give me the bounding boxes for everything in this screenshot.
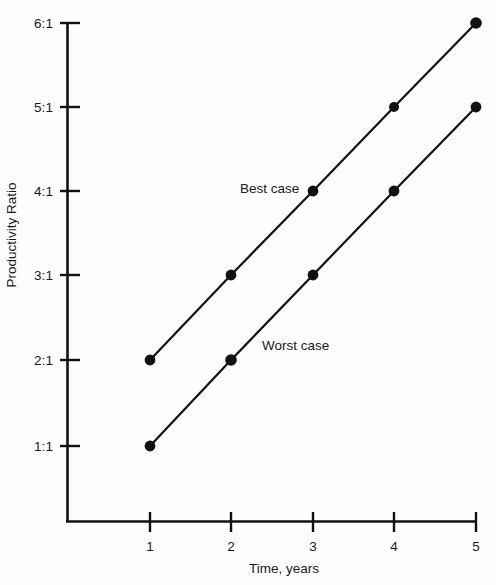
data-point	[389, 102, 399, 112]
y-tick-label-5: 5:1	[8, 100, 53, 115]
data-point	[389, 186, 400, 197]
series-label-worst-case: Worst case	[262, 338, 329, 353]
series-label-best-case: Best case	[240, 181, 299, 196]
x-tick-label-2: 2	[227, 539, 235, 554]
data-point	[145, 355, 156, 366]
chart-plot-area	[0, 0, 496, 585]
data-point	[471, 102, 482, 113]
x-tick-label-5: 5	[472, 539, 480, 554]
data-point	[308, 186, 319, 197]
data-point	[226, 270, 237, 281]
chart-container: 6:1 5:1 4:1 3:1 2:1 1:1 1 2 3 4 5 Produc…	[0, 0, 496, 585]
x-axis-title: Time, years	[249, 561, 319, 576]
x-tick-label-3: 3	[309, 539, 317, 554]
x-tick-label-4: 4	[390, 539, 398, 554]
data-point	[308, 270, 319, 281]
y-axis-title: Productivity Ratio	[4, 182, 19, 287]
y-tick-label-6: 6:1	[8, 16, 53, 31]
y-tick-label-2: 2:1	[8, 353, 53, 368]
data-point	[225, 354, 237, 366]
y-tick-label-1: 1:1	[8, 439, 53, 454]
y-axis-ticks	[60, 23, 80, 446]
data-point	[470, 17, 482, 29]
x-tick-label-1: 1	[146, 539, 154, 554]
data-point	[145, 441, 156, 452]
